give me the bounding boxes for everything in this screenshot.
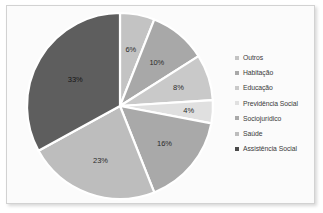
legend-item[interactable]: Educação bbox=[235, 80, 317, 95]
legend-swatch-icon bbox=[235, 101, 239, 105]
pie-slice-value-label: 10% bbox=[149, 57, 164, 66]
legend-swatch-icon bbox=[235, 86, 239, 90]
pie-slice-value-label: 16% bbox=[157, 138, 172, 147]
legend-item-label: Assistência Social bbox=[243, 145, 297, 152]
pie-chart-graphic bbox=[17, 10, 227, 202]
legend-swatch-icon bbox=[235, 147, 239, 151]
pie-slice-value-label: 4% bbox=[183, 106, 194, 115]
legend-item[interactable]: Habitação bbox=[235, 65, 317, 80]
pie-slice-value-label: 33% bbox=[68, 75, 83, 84]
legend-item[interactable]: Outros bbox=[235, 50, 317, 65]
legend-item[interactable]: Assistência Social bbox=[235, 141, 317, 156]
legend-item-label: Saúde bbox=[243, 130, 262, 137]
legend-swatch-icon bbox=[235, 56, 239, 60]
legend-swatch-icon bbox=[235, 132, 239, 136]
legend-swatch-icon bbox=[235, 71, 239, 75]
pie-chart-plot-area: 6%10%8%4%16%23%33% OutrosHabitaçãoEducaç… bbox=[7, 6, 316, 203]
chart-frame: 6%10%8%4%16%23%33% OutrosHabitaçãoEducaç… bbox=[6, 5, 315, 204]
legend-item[interactable]: Previdência Social bbox=[235, 96, 317, 111]
legend-item-label: Habitação bbox=[243, 69, 273, 76]
legend-item-label: Sociojurídico bbox=[243, 115, 281, 122]
legend-item[interactable]: Saúde bbox=[235, 126, 317, 141]
legend-item-label: Educação bbox=[243, 84, 273, 91]
legend-item-label: Outros bbox=[243, 54, 263, 61]
legend-item[interactable]: Sociojurídico bbox=[235, 111, 317, 126]
chart-legend: OutrosHabitaçãoEducaçãoPrevidência Socia… bbox=[235, 50, 317, 156]
pie-slice-value-label: 8% bbox=[173, 83, 184, 92]
pie-slice-value-label: 6% bbox=[125, 45, 136, 54]
legend-item-label: Previdência Social bbox=[243, 100, 298, 107]
pie-slice-value-label: 23% bbox=[93, 156, 108, 165]
legend-swatch-icon bbox=[235, 116, 239, 120]
